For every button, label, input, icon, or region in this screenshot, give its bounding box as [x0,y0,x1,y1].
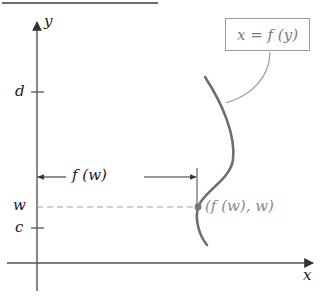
equation-label-box: x = f (y) [225,18,310,51]
point-label: (f (w), w) [205,199,274,214]
dimension-label-f-w: f (w) [72,168,107,183]
point-f-w-w [195,204,202,211]
tick-label-c: c [15,220,23,235]
equation-text: x = f (y) [237,26,298,44]
y-axis-label: y [44,14,52,29]
area-between-curve-and-y-axis-figure: x = f (y) y x d w c f (w) (f (w), w) [0,0,325,297]
tick-label-w: w [13,198,26,213]
label-connector [226,52,270,103]
x-axis-label: x [303,268,311,283]
tick-label-d: d [15,84,25,99]
